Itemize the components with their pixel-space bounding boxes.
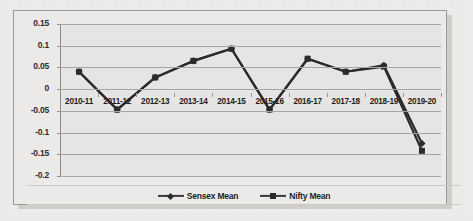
x-axis-tick-label: 2017-18 xyxy=(332,97,360,106)
legend-rule-top xyxy=(27,185,461,186)
legend-item[interactable]: Nifty Mean xyxy=(260,191,330,201)
x-axis-tick-label: 2014-15 xyxy=(217,97,245,106)
gridline xyxy=(60,89,441,90)
legend-label: Sensex Mean xyxy=(187,191,239,201)
legend-marker xyxy=(167,192,174,199)
legend-rule-bottom xyxy=(27,204,461,205)
data-point-marker xyxy=(305,56,311,62)
x-axis-tick-mark xyxy=(289,93,290,97)
gridline xyxy=(60,67,441,68)
legend-item[interactable]: Sensex Mean xyxy=(158,191,239,201)
x-axis-tick-mark xyxy=(174,93,175,97)
y-axis-tick-label: -0.05 xyxy=(31,105,49,115)
data-point-marker xyxy=(343,69,349,75)
data-point-marker xyxy=(76,69,82,75)
chart-container: 0.150.10.050-0.05-0.1-0.15-0.2 2010-1120… xyxy=(13,10,447,205)
gridline xyxy=(60,176,441,177)
data-point-marker xyxy=(152,74,158,80)
y-axis-tick-label: -0.2 xyxy=(35,170,49,180)
x-axis-tick-mark xyxy=(251,93,252,97)
gridline xyxy=(60,46,441,47)
square-marker-icon xyxy=(260,191,286,201)
y-axis-tick-label: 0 xyxy=(44,83,49,93)
x-axis-tick-mark xyxy=(327,93,328,97)
data-point-marker xyxy=(190,58,196,64)
x-axis-tick-mark xyxy=(136,93,137,97)
chart-legend: Sensex MeanNifty Mean xyxy=(27,187,461,205)
y-axis-tick-label: 0.15 xyxy=(33,18,49,28)
y-axis-tick-label: -0.1 xyxy=(35,127,49,137)
x-axis-tick-mark xyxy=(98,93,99,97)
y-axis: 0.150.10.050-0.05-0.1-0.15-0.2 xyxy=(14,24,57,176)
diamond-marker-icon xyxy=(158,191,184,201)
x-axis-tick-label: 2019-20 xyxy=(408,97,436,106)
x-axis-tick-label: 2013-14 xyxy=(179,97,207,106)
gridline xyxy=(60,24,441,25)
y-axis-tick-label: -0.15 xyxy=(31,148,49,158)
x-axis-tick-label: 2010-11 xyxy=(65,97,93,106)
y-axis-tick-label: 0.05 xyxy=(33,61,49,71)
x-axis-tick-label: 2015-16 xyxy=(255,97,283,106)
x-axis-tick-mark xyxy=(403,93,404,97)
y-axis-tick-label: 0.1 xyxy=(38,40,49,50)
legend-marker xyxy=(270,193,276,199)
data-point-marker xyxy=(419,148,425,154)
x-axis-tick-label: 2012-13 xyxy=(141,97,169,106)
x-axis-labels: 2010-112011-122012-132013-142014-152015-… xyxy=(60,97,441,109)
gridline xyxy=(60,133,441,134)
x-axis-tick-label: 2018-19 xyxy=(370,97,398,106)
gridline xyxy=(60,154,441,155)
x-axis-tick-label: 2011-12 xyxy=(103,97,131,106)
x-axis-tick-mark xyxy=(365,93,366,97)
x-axis-tick-mark xyxy=(441,93,442,97)
gridline xyxy=(60,111,441,112)
x-axis-tick-label: 2016-17 xyxy=(293,97,321,106)
legend-label: Nifty Mean xyxy=(289,191,330,201)
x-axis-tick-mark xyxy=(212,93,213,97)
